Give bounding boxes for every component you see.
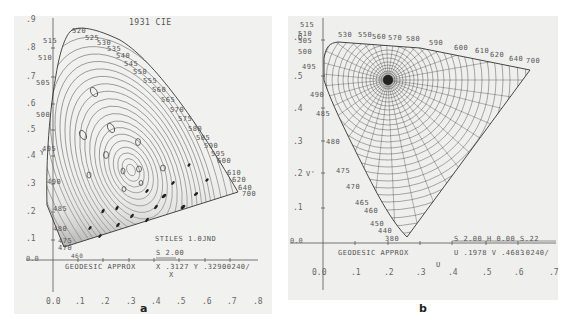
caption-b: b bbox=[419, 302, 427, 315]
locus-label: 700 bbox=[242, 191, 256, 198]
locus-label: 570 bbox=[388, 35, 402, 42]
locus-label: 440 bbox=[378, 228, 392, 235]
x-tick: .2 bbox=[384, 269, 394, 277]
y-tick: .1 bbox=[293, 204, 303, 212]
plot-title: 1931 CIE bbox=[129, 19, 172, 27]
x-tick: .4 bbox=[151, 298, 161, 306]
locus-label: 550 bbox=[133, 69, 147, 76]
locus-label: 620 bbox=[232, 177, 246, 184]
locus-label: 470 bbox=[346, 184, 360, 191]
locus-label: 480 bbox=[326, 139, 340, 146]
white-point-marker bbox=[383, 75, 393, 85]
params-annotation: S 2.00 H 0.00 S.22 bbox=[454, 236, 539, 243]
y-tick: .8 bbox=[26, 44, 36, 52]
y-tick: .2 bbox=[26, 208, 36, 216]
y-tick: .7 bbox=[26, 73, 36, 81]
x-tick: .6 bbox=[202, 298, 212, 306]
locus-label: 610 bbox=[475, 48, 489, 55]
y-tick: .2 bbox=[293, 170, 303, 178]
y-tick: .3 bbox=[293, 138, 303, 146]
x-tick: .1 bbox=[351, 269, 361, 277]
method-annotation: GEODESIC APPROX bbox=[338, 250, 409, 257]
locus-label: 560 bbox=[372, 34, 386, 41]
x-tick: .2 bbox=[100, 298, 110, 306]
locus-label: 585 bbox=[196, 135, 210, 142]
locus-label: 380 bbox=[385, 236, 399, 243]
y-tick: .1 bbox=[26, 235, 36, 243]
locus-label: 490 bbox=[310, 92, 324, 99]
x-tick: .8 bbox=[253, 298, 263, 306]
chart-panel-a: 1931 CIE .9 .8 .7 .6 .5 .4 .3 .2 .1 0.0 … bbox=[14, 16, 272, 314]
locus-label: 555 bbox=[143, 78, 157, 85]
x-axis-label: X bbox=[169, 272, 174, 279]
white-point-annotation: U .1978 V .4683 bbox=[454, 250, 525, 257]
locus-label: 590 bbox=[204, 143, 218, 150]
x-tick: 0.0 bbox=[46, 298, 60, 306]
x-tick: .6 bbox=[514, 269, 524, 277]
x-tick: .5 bbox=[176, 298, 186, 306]
y-tick: .5 bbox=[26, 126, 36, 134]
y-tick: .4 bbox=[293, 105, 303, 113]
locus-label: 580 bbox=[406, 36, 420, 43]
locus-label: 515 bbox=[43, 38, 57, 45]
locus-label: 550 bbox=[358, 32, 372, 39]
white-point-annotation: X .3127 Y .3290 bbox=[156, 264, 227, 271]
locus-label: 600 bbox=[454, 45, 468, 52]
x-tick: .4 bbox=[448, 269, 458, 277]
locus-label: 485 bbox=[53, 206, 67, 213]
locus-label: 460 bbox=[71, 253, 83, 259]
observer-annotation: STILES 1.0JND bbox=[155, 236, 216, 243]
caption-a: a bbox=[140, 302, 147, 315]
locus-label: 700 bbox=[526, 58, 540, 65]
x-tick: .7 bbox=[227, 298, 237, 306]
locus-label: 600 bbox=[217, 158, 231, 165]
origin-label: 0.0 bbox=[290, 238, 303, 245]
locus-label: 570 bbox=[170, 107, 184, 114]
y-tick: .3 bbox=[26, 180, 36, 188]
locus-label: 510 bbox=[38, 55, 52, 62]
x-tick: .3 bbox=[126, 298, 136, 306]
locus-label: 470 bbox=[58, 245, 72, 252]
x-tick: .1 bbox=[75, 298, 85, 306]
locus-label: 640 bbox=[509, 56, 523, 63]
locus-label: 515 bbox=[300, 22, 314, 29]
y-tick: .5 bbox=[293, 73, 303, 81]
locus-label: 545 bbox=[124, 61, 138, 68]
x-tick: .7 bbox=[549, 269, 559, 277]
locus-label: 500 bbox=[298, 49, 312, 56]
locus-label: 480 bbox=[53, 226, 67, 233]
locus-label: 495 bbox=[42, 146, 56, 153]
locus-label: 620 bbox=[490, 52, 504, 59]
locus-label: 580 bbox=[188, 126, 202, 133]
x-tick: .5 bbox=[482, 269, 492, 277]
locus-label: 560 bbox=[152, 87, 166, 94]
locus-label: 465 bbox=[355, 200, 369, 207]
locus-label: 575 bbox=[178, 116, 192, 123]
locus-label: 530 bbox=[338, 32, 352, 39]
y-tick: .6 bbox=[26, 100, 36, 108]
locus-label: 490 bbox=[47, 179, 61, 186]
locus-label: 505 bbox=[298, 38, 312, 45]
locus-label: 505 bbox=[36, 80, 50, 87]
locus-label: 540 bbox=[116, 53, 130, 60]
y-tick: .4 bbox=[26, 152, 36, 160]
scale-annotation: S 2.00 bbox=[156, 250, 184, 257]
locus-label: 500 bbox=[36, 112, 50, 119]
locus-label: 565 bbox=[161, 97, 175, 104]
step-annotation: .0240/ bbox=[521, 250, 549, 257]
x-axis-label: U bbox=[436, 262, 441, 269]
locus-label: 460 bbox=[364, 208, 378, 215]
y-axis-label: V' bbox=[306, 171, 315, 178]
locus-label: 485 bbox=[316, 111, 330, 118]
chart-panel-b: .6 .5 .4 .3 .2 .1 0.0 V' 530 550 560 570… bbox=[288, 16, 558, 300]
method-annotation: GEODESIC APPROX bbox=[65, 264, 136, 271]
origin-label: 0.0 bbox=[26, 256, 39, 263]
locus-label: 590 bbox=[429, 40, 443, 47]
x-tick: 0.0 bbox=[312, 269, 326, 277]
locus-label: 495 bbox=[302, 64, 316, 71]
step-annotation: .0240/ bbox=[222, 264, 250, 271]
y-tick: .9 bbox=[26, 16, 36, 24]
x-tick: .3 bbox=[416, 269, 426, 277]
locus-label: 475 bbox=[336, 168, 350, 175]
